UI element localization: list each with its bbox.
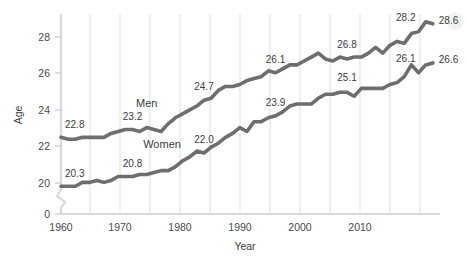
data-label-men-2012: 28.6 [439,15,459,26]
data-label-women-2000: 25.1 [337,72,357,83]
data-label-men-1990: 26.1 [266,54,286,65]
x-tick-label-1980: 1980 [168,221,192,233]
men-line [61,22,433,139]
data-label-men-1970: 23.2 [123,111,143,122]
chart-container: 28 26 24 22 20 0 1960 1970 1980 1990 200… [0,0,467,257]
x-tick-label-1960: 1960 [49,221,73,233]
data-label-women-2010: 26.1 [396,53,416,64]
y-axis-break-zigzag [57,190,65,214]
data-label-men-1980: 24.7 [194,81,214,92]
data-label-women-1980: 22.0 [194,134,214,145]
y-tick-label-0: 0 [44,208,50,220]
men-series-label: Men [136,97,157,109]
x-tick-label-1970: 1970 [108,221,132,233]
data-label-men-1960: 22.8 [65,119,85,130]
x-axis-title: Year [234,240,256,252]
data-label-women-1960: 20.3 [65,168,85,179]
y-tick-label-26: 26 [38,67,50,79]
data-label-men-2000: 26.8 [337,39,357,50]
data-label-women-1970: 20.8 [123,158,143,169]
women-series-label: Women [143,138,181,150]
y-axis-title: Age [12,106,24,125]
x-tick-label-1990: 1990 [228,221,252,233]
point-label-layer: 22.823.224.726.126.828.228.620.320.822.0… [65,12,459,180]
data-label-women-1990: 23.9 [266,97,286,108]
y-tick-label-24: 24 [38,104,50,116]
y-axis [55,14,65,214]
y-tick-label-22: 22 [38,140,50,152]
line-chart-svg: 28 26 24 22 20 0 1960 1970 1980 1990 200… [0,0,467,257]
y-tick-label-20: 20 [38,177,50,189]
y-tick-label-28: 28 [38,31,50,43]
data-label-men-2010: 28.2 [396,12,416,23]
x-tick-label-2010: 2010 [348,221,372,233]
x-tick-label-2000: 2000 [288,221,312,233]
data-label-women-2012: 26.6 [439,54,459,65]
